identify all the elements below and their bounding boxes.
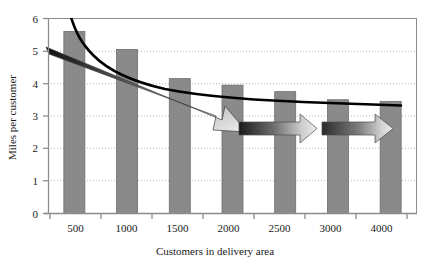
y-axis-tick-labels: 6 5 4 3 2 1 0 <box>33 13 39 220</box>
chart-container: 6 5 4 3 2 1 0 500 1000 1500 2000 2500 30… <box>0 0 430 271</box>
bar-2000 <box>222 85 243 213</box>
x-axis-tick-labels: 500 1000 1500 2000 2500 3000 4000 <box>67 222 393 234</box>
x-tick-label-3000: 3000 <box>320 222 343 234</box>
y-tick-label-4: 4 <box>33 78 39 90</box>
y-tick-label-1: 1 <box>33 175 39 187</box>
bar-3000 <box>327 100 348 214</box>
y-tick-label-3: 3 <box>33 110 39 122</box>
bar-1500 <box>169 79 190 214</box>
bar-2500 <box>275 92 296 214</box>
x-axis-ticks <box>50 214 407 220</box>
x-tick-label-1000: 1000 <box>116 222 139 234</box>
bar-4000 <box>380 101 401 213</box>
y-axis-title: Miles per customer <box>6 75 18 160</box>
y-tick-label-6: 6 <box>33 13 39 25</box>
y-tick-label-2: 2 <box>33 142 39 154</box>
x-tick-label-1500: 1500 <box>167 222 190 234</box>
x-tick-label-500: 500 <box>67 222 84 234</box>
y-tick-label-0: 0 <box>33 208 39 220</box>
x-tick-label-2000: 2000 <box>218 222 241 234</box>
x-axis-title: Customers in delivery area <box>156 245 274 257</box>
x-tick-label-2500: 2500 <box>269 222 292 234</box>
y-tick-label-5: 5 <box>33 45 39 57</box>
bar-chart-with-trend-curve: 6 5 4 3 2 1 0 500 1000 1500 2000 2500 30… <box>0 0 430 271</box>
x-tick-label-4000: 4000 <box>371 222 394 234</box>
